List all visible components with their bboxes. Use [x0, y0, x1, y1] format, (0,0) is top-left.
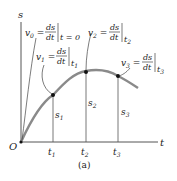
svg-text:dt: dt [46, 33, 55, 42]
v2-annotation: v2 = ds dt t2 [88, 23, 131, 45]
svg-text:ds: ds [110, 23, 119, 32]
s3-label: s3 [121, 107, 130, 118]
t3-label: t3 [113, 147, 121, 158]
v2-leader [86, 33, 91, 70]
v0-annotation: v0 = ds dt t = 0 [25, 23, 80, 42]
svg-text:v2 =: v2 = [88, 28, 107, 39]
svg-text:ds: ds [57, 47, 66, 56]
s2-label: s2 [88, 98, 97, 109]
svg-text:t = 0: t = 0 [60, 33, 80, 42]
svg-text:t1: t1 [71, 59, 78, 69]
svg-text:v0 =: v0 = [25, 28, 44, 39]
svg-text:ds: ds [46, 23, 55, 32]
point-origin [19, 140, 22, 143]
origin-label: O [9, 141, 17, 152]
v1-leader [42, 65, 52, 94]
svg-text:t3: t3 [157, 65, 164, 75]
t-axis-label: t [160, 137, 165, 148]
v3-leader [119, 68, 130, 76]
t2-label: t2 [81, 147, 89, 158]
svg-text:dt: dt [110, 33, 119, 42]
svg-text:v1 =: v1 = [36, 52, 55, 63]
point-t2 [84, 70, 88, 74]
svg-text:dt: dt [57, 57, 66, 66]
svg-text:t2: t2 [124, 35, 131, 45]
svg-text:v3 =: v3 = [121, 58, 140, 69]
v3-annotation: v3 = ds dt t3 [121, 53, 164, 75]
svg-text:ds: ds [143, 53, 152, 62]
s1-label: s1 [55, 110, 63, 121]
figure-caption: (a) [78, 160, 90, 170]
s-t-diagram: s t O v0 = ds dt t = 0 v1 = ds dt t1 v2 … [0, 0, 177, 181]
svg-text:dt: dt [143, 63, 152, 72]
s-axis-label: s [18, 9, 23, 20]
v1-annotation: v1 = ds dt t1 [36, 47, 78, 69]
t1-label: t1 [48, 147, 55, 158]
